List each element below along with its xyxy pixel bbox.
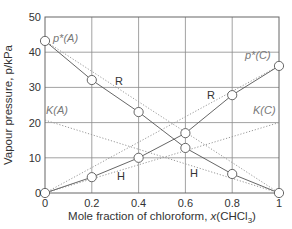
label-raoult-c: R bbox=[207, 89, 215, 101]
label-k-c: K(C) bbox=[253, 104, 276, 116]
y-tick-label: 30 bbox=[29, 81, 41, 93]
ideal-law-line bbox=[45, 41, 279, 193]
x-axis-ticks: 00.20.40.60.81 bbox=[42, 197, 282, 209]
data-point bbox=[40, 36, 49, 45]
grid-lines bbox=[45, 17, 279, 193]
x-tick-label: 0 bbox=[42, 197, 48, 209]
y-axis-ticks: 01020304050 bbox=[29, 11, 41, 199]
label-henry-c: H bbox=[190, 167, 198, 179]
x-tick-label: 0.2 bbox=[84, 197, 99, 209]
label-p-star-a: p*(A) bbox=[52, 32, 78, 44]
vapour-pressure-chart: 01020304050 00.20.40.60.81 Vapour pressu… bbox=[0, 0, 292, 229]
y-tick-label: 20 bbox=[29, 117, 41, 129]
data-point bbox=[87, 75, 96, 84]
label-p-star-c: p*(C) bbox=[244, 49, 271, 61]
y-tick-label: 10 bbox=[29, 152, 41, 164]
y-tick-label: 0 bbox=[35, 187, 41, 199]
y-axis-title: Vapour pressure, p/kPa bbox=[2, 44, 14, 165]
x-tick-label: 0.4 bbox=[131, 197, 146, 209]
data-point bbox=[228, 91, 237, 100]
data-point bbox=[181, 129, 190, 138]
plot-frame bbox=[45, 17, 279, 193]
x-tick-label: 0.6 bbox=[178, 197, 193, 209]
label-raoult-a: R bbox=[115, 75, 123, 87]
data-point bbox=[181, 143, 190, 152]
label-k-a: K(A) bbox=[46, 104, 68, 116]
data-point bbox=[87, 173, 96, 182]
data-point bbox=[134, 153, 143, 162]
x-tick-label: 0.8 bbox=[225, 197, 240, 209]
y-tick-label: 50 bbox=[29, 11, 41, 23]
ideal-law-lines bbox=[45, 41, 279, 193]
label-henry-a: H bbox=[117, 170, 125, 182]
x-tick-label: 1 bbox=[276, 197, 282, 209]
y-tick-label: 40 bbox=[29, 46, 41, 58]
data-point bbox=[228, 169, 237, 178]
x-axis-title: Mole fraction of chloroform, x(CHCl3) bbox=[68, 210, 256, 225]
data-point bbox=[274, 61, 283, 70]
data-point bbox=[134, 107, 143, 116]
